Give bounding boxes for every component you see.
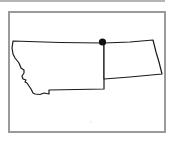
map-speck xyxy=(90,121,91,122)
page: Montana North Dakota Border point xyxy=(0,0,175,141)
region-north-dakota xyxy=(104,40,162,79)
region-montana xyxy=(12,41,104,95)
location-marker[interactable] xyxy=(99,38,106,45)
map-canvas xyxy=(0,0,175,141)
